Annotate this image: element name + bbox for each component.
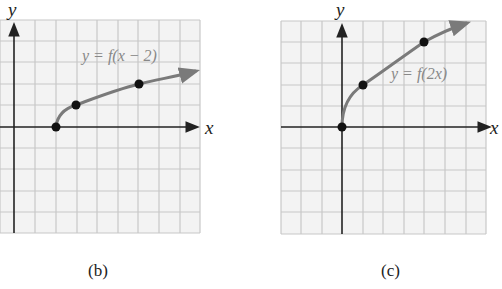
panel-b: y x y = f(x − 2) (b) — [0, 0, 214, 280]
panel-b-point-6-2 — [135, 80, 144, 89]
panel-b-equation-label: y = f(x − 2) — [80, 47, 157, 65]
panel-b-y-axis-label: y — [6, 0, 17, 20]
panel-b-caption: (b) — [88, 261, 108, 280]
panel-c-equation-label: y = f(2x) — [389, 65, 447, 83]
panel-b-point-3-1 — [72, 101, 81, 110]
figure-canvas: y x y = f(x − 2) (b) — [0, 0, 502, 289]
panel-c-point-0-0 — [338, 123, 347, 132]
panel-c-point-1-2 — [359, 81, 368, 90]
panel-b-x-axis-label: x — [204, 117, 214, 138]
panel-c-caption: (c) — [381, 261, 400, 280]
panel-c-y-axis-label: y — [334, 0, 345, 20]
panel-c-point-4-4 — [420, 38, 429, 47]
panel-c-x-axis-label: x — [489, 117, 499, 138]
panel-c: y x y = f(2x) (c) — [281, 0, 499, 280]
panel-b-point-2-0 — [52, 123, 61, 132]
